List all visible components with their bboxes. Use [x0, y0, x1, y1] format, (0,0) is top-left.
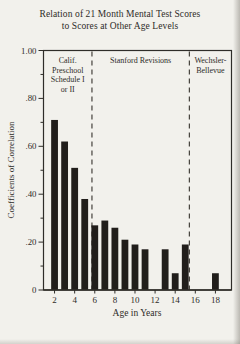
y-tick-label: .80 — [26, 93, 38, 103]
x-tick-label: 6 — [93, 295, 98, 305]
x-tick-label: 8 — [113, 295, 118, 305]
bar-age-3 — [61, 142, 68, 290]
bar-age-15 — [182, 244, 189, 290]
y-tick-label: .40 — [26, 189, 38, 199]
x-tick-label: 10 — [130, 295, 140, 305]
x-axis-title: Age in Years — [43, 308, 231, 318]
x-tick-label: 18 — [211, 295, 221, 305]
region-label-line: or II — [61, 85, 75, 94]
x-tick-label: 2 — [52, 295, 57, 305]
x-tick-label: 12 — [151, 295, 160, 305]
region-label-line: Stanford Revisions — [110, 56, 171, 65]
bar-age-9 — [122, 240, 129, 290]
x-tick-label: 14 — [171, 295, 181, 305]
region-label-line: Bellevue — [196, 66, 225, 75]
bar-age-5 — [81, 199, 88, 290]
region-label-line: Calif. — [59, 56, 77, 65]
bar-age-11 — [142, 249, 149, 290]
bar-age-8 — [111, 228, 118, 290]
bar-age-6 — [91, 225, 98, 290]
bar-age-7 — [101, 221, 108, 290]
bar-age-14 — [172, 273, 179, 290]
bar-age-10 — [132, 244, 139, 290]
x-tick-label: 4 — [72, 295, 77, 305]
bar-age-13 — [162, 249, 169, 290]
bar-age-2 — [51, 120, 58, 290]
x-tick-label: 16 — [191, 295, 201, 305]
y-tick-label: 1.00 — [21, 46, 37, 56]
region-label-line: Preschool — [52, 66, 84, 75]
correlation-bar-chart: 0.20.40.60.801.0024681012141618Calif.Pre… — [0, 0, 240, 344]
region-label-line: Wechsler- — [194, 56, 226, 65]
y-tick-label: 0 — [32, 285, 37, 295]
region-label-line: Schedule I — [51, 75, 85, 84]
bar-age-18 — [212, 273, 219, 290]
scanned-chart-page: Relation of 21 Month Mental Test Scores … — [0, 0, 240, 344]
y-tick-label: .20 — [26, 237, 38, 247]
y-tick-label: .60 — [26, 141, 38, 151]
bar-age-4 — [71, 168, 78, 290]
